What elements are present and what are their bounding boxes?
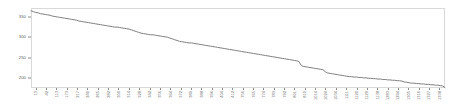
x-tick: 801 — [293, 88, 297, 98]
y-tick-label: 300 — [19, 35, 26, 39]
x-tick-mark — [274, 88, 275, 90]
x-tick-mark — [98, 88, 99, 90]
chart-container: 350300250200 134211317321724026528230031… — [0, 0, 463, 112]
x-tick: 756 — [241, 88, 245, 98]
x-tick-mark — [201, 88, 202, 90]
x-tick-label: 42 — [45, 91, 49, 95]
x-tick: 372 — [179, 88, 183, 98]
x-tick-label: 1294 — [396, 91, 400, 100]
x-tick-mark — [191, 88, 192, 90]
x-tick-mark — [388, 88, 389, 90]
x-tick-mark — [346, 88, 347, 90]
x-tick-label: 1316 — [417, 91, 421, 100]
x-tick: 173 — [65, 88, 69, 98]
x-tick: 1111 — [345, 88, 349, 99]
y-tick-label: 200 — [19, 76, 26, 80]
x-tick-mark — [419, 88, 420, 90]
x-tick: 765 — [252, 88, 256, 98]
x-tick-label: 765 — [252, 91, 256, 98]
x-tick: 42 — [45, 88, 49, 95]
x-tick: 1305 — [407, 88, 411, 100]
x-tick-label: 783 — [272, 91, 276, 98]
x-tick-mark — [439, 88, 440, 90]
x-tick-label: 1034 — [334, 91, 338, 100]
x-tick-mark — [263, 88, 264, 90]
x-tick-mark — [87, 88, 88, 90]
x-tick-label: 113 — [55, 91, 59, 97]
x-tick: 300 — [117, 88, 121, 98]
x-tick: 1294 — [396, 88, 400, 100]
series-polyline — [31, 11, 445, 88]
x-axis: 1342113173217240265282300314328342356364… — [31, 88, 445, 112]
x-tick-label: 300 — [117, 91, 121, 98]
x-tick: 1338 — [438, 88, 442, 100]
y-tick-label: 350 — [19, 15, 26, 19]
x-tick: 217 — [76, 88, 80, 98]
x-tick-label: 404 — [220, 91, 224, 98]
x-tick-mark — [243, 88, 244, 90]
x-tick-mark — [129, 88, 130, 90]
x-tick-label: 412 — [231, 91, 235, 98]
x-tick-label: 1305 — [407, 91, 411, 100]
x-tick-label: 1024 — [324, 91, 328, 100]
x-tick-mark — [160, 88, 161, 90]
x-tick: 364 — [169, 88, 173, 98]
x-tick-mark — [67, 88, 68, 90]
x-tick: 792 — [283, 88, 287, 98]
x-tick-mark — [170, 88, 171, 90]
x-tick: 1283 — [386, 88, 390, 100]
x-tick-label: 372 — [179, 91, 183, 98]
x-tick-mark — [325, 88, 326, 90]
x-tick-mark — [36, 88, 37, 90]
x-tick-label: 356 — [158, 91, 162, 98]
x-tick: 356 — [158, 88, 162, 98]
x-tick-label: 1338 — [438, 91, 442, 100]
x-tick-mark — [222, 88, 223, 90]
x-tick-label: 1111 — [345, 91, 349, 99]
x-tick: 265 — [96, 88, 100, 98]
y-tick-label: 250 — [19, 55, 26, 59]
x-tick-label: 792 — [283, 91, 287, 98]
x-tick: 783 — [272, 88, 276, 98]
x-tick-label: 13 — [34, 91, 38, 95]
x-tick-label: 810 — [303, 91, 307, 98]
x-tick-mark — [336, 88, 337, 90]
x-tick: 1024 — [324, 88, 328, 100]
x-tick-label: 1120 — [355, 91, 359, 100]
x-tick-label: 388 — [200, 91, 204, 98]
x-tick: 1316 — [417, 88, 421, 100]
x-tick-mark — [139, 88, 140, 90]
x-tick-mark — [398, 88, 399, 90]
x-tick: 810 — [303, 88, 307, 98]
x-tick-mark — [315, 88, 316, 90]
x-tick: 240 — [86, 88, 90, 98]
x-tick-label: 364 — [169, 91, 173, 98]
x-tick: 282 — [107, 88, 111, 98]
x-tick-mark — [305, 88, 306, 90]
x-tick-label: 1129 — [365, 91, 369, 100]
x-tick-label: 756 — [241, 91, 245, 98]
x-tick-label: 801 — [293, 91, 297, 98]
x-tick-mark — [181, 88, 182, 90]
x-tick: 388 — [200, 88, 204, 98]
y-axis: 350300250200 — [0, 8, 31, 88]
x-tick: 328 — [138, 88, 142, 98]
x-tick-label: 217 — [76, 91, 80, 98]
x-tick: 1120 — [355, 88, 359, 100]
x-tick-mark — [253, 88, 254, 90]
x-tick: 314 — [127, 88, 131, 98]
x-tick: 113 — [55, 88, 59, 97]
x-tick-label: 396 — [210, 91, 214, 98]
x-tick-label: 1138 — [376, 91, 380, 100]
x-tick-label: 240 — [86, 91, 90, 98]
x-tick: 1034 — [334, 88, 338, 100]
x-tick-mark — [408, 88, 409, 90]
x-tick-label: 1327 — [427, 91, 431, 100]
x-tick-mark — [77, 88, 78, 90]
x-tick-mark — [429, 88, 430, 90]
x-tick: 342 — [148, 88, 152, 98]
x-tick: 1138 — [376, 88, 380, 100]
line-series — [31, 8, 445, 88]
x-tick-mark — [212, 88, 213, 90]
x-tick-mark — [294, 88, 295, 90]
